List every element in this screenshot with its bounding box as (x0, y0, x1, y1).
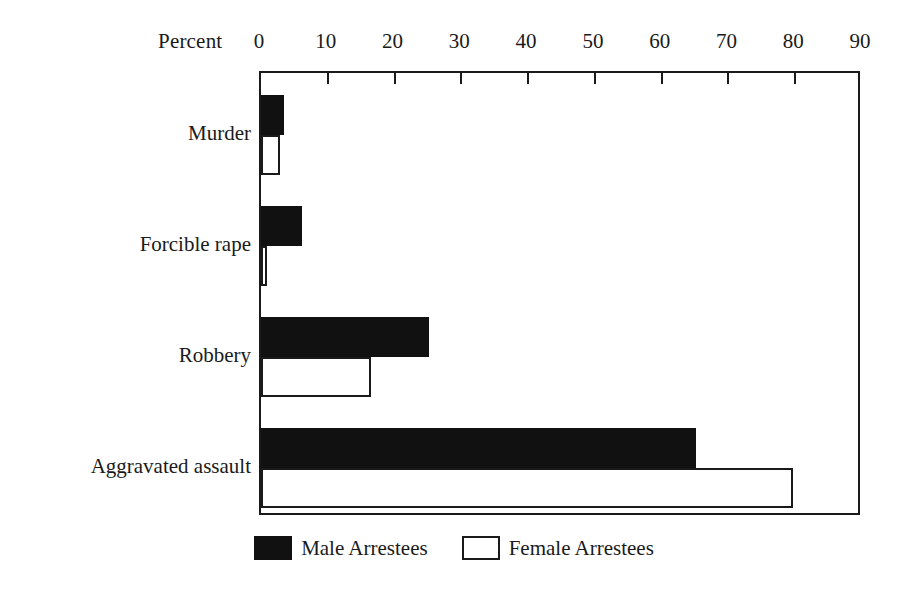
outlined-white-swatch-icon (462, 536, 500, 560)
x-tick-mark-70 (727, 73, 729, 84)
x-tick-label-20: 20 (373, 28, 413, 54)
legend-item-female: Female Arrestees (462, 535, 654, 561)
plot-area (259, 71, 860, 515)
x-tick-label-40: 40 (506, 28, 546, 54)
x-tick-mark-40 (527, 73, 529, 84)
bar-chart: Percent 0 10 20 30 40 50 60 70 80 90 Mur… (0, 0, 908, 591)
bar-forcible-rape-male-arrestees (261, 206, 302, 246)
chart-legend: Male Arrestees Female Arrestees (0, 528, 908, 568)
category-label-robbery: Robbery (9, 342, 259, 368)
x-tick-label-0: 0 (239, 28, 279, 54)
x-tick-mark-50 (594, 73, 596, 84)
legend-label-male: Male Arrestees (301, 535, 428, 561)
x-tick-mark-80 (794, 73, 796, 84)
x-axis-title: Percent (158, 28, 222, 54)
x-tick-mark-30 (460, 73, 462, 84)
x-axis-header: Percent 0 10 20 30 40 50 60 70 80 90 (0, 28, 908, 58)
x-tick-mark-60 (661, 73, 663, 84)
x-tick-label-60: 60 (640, 28, 680, 54)
x-tick-label-30: 30 (439, 28, 479, 54)
x-tick-label-70: 70 (706, 28, 746, 54)
bar-forcible-rape-female-arrestees (261, 246, 267, 286)
bar-robbery-female-arrestees (261, 357, 371, 397)
category-label-forcible-rape: Forcible rape (9, 231, 259, 257)
x-tick-mark-20 (394, 73, 396, 84)
bar-aggravated-assault-female-arrestees (261, 468, 793, 508)
category-label-murder: Murder (9, 120, 259, 146)
category-label-aggravated-assault: Aggravated assault (9, 453, 259, 479)
x-tick-label-50: 50 (573, 28, 613, 54)
bar-murder-male-arrestees (261, 95, 284, 135)
x-tick-mark-10 (327, 73, 329, 84)
x-tick-label-80: 80 (773, 28, 813, 54)
bar-aggravated-assault-male-arrestees (261, 428, 696, 468)
x-tick-label-10: 10 (306, 28, 346, 54)
bar-robbery-male-arrestees (261, 317, 429, 357)
legend-item-male: Male Arrestees (254, 535, 428, 561)
category-axis-labels: Murder Forcible rape Robbery Aggravated … (0, 71, 259, 515)
filled-black-swatch-icon (254, 536, 292, 560)
bar-murder-female-arrestees (261, 135, 280, 175)
x-tick-label-90: 90 (840, 28, 880, 54)
legend-label-female: Female Arrestees (509, 535, 654, 561)
